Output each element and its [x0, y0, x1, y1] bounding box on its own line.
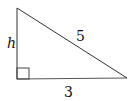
- base-side: [17, 78, 127, 79]
- height-label: h: [7, 35, 16, 51]
- triangle-diagram: h 5 3: [0, 0, 130, 101]
- right-angle-marker: [17, 68, 29, 79]
- hypotenuse-side: [17, 8, 127, 78]
- hypotenuse-label: 5: [76, 28, 85, 44]
- base-label: 3: [64, 84, 73, 100]
